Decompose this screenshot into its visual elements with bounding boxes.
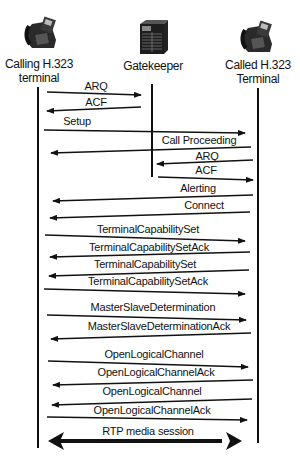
msg-label: RTP media session xyxy=(102,425,194,437)
msg-label: TerminalCapabilitySet xyxy=(97,223,199,235)
phone-icon xyxy=(26,16,56,48)
callee-label-line1: Called H.323 xyxy=(225,58,291,72)
msg-label: Call Proceeding xyxy=(162,134,237,146)
msg-label: ARQ xyxy=(84,80,107,92)
msg-arrow-arq-1 xyxy=(47,92,141,95)
msg-label: Setup xyxy=(63,115,91,127)
gatekeeper-label: Gatekeeper xyxy=(123,59,183,73)
msg-arrow-acf-2 xyxy=(158,177,253,180)
msg-arrow-msdack xyxy=(51,333,251,339)
gatekeeper-label-line1: Gatekeeper xyxy=(123,59,183,73)
msg-label: TerminalCapabilitySetAck xyxy=(88,275,208,287)
caller-label-line2: terminal xyxy=(5,71,73,85)
msg-label: OpenLogicalChannel xyxy=(102,385,201,397)
msg-label: Connect xyxy=(184,199,224,211)
caller-label-line1: Calling H.323 xyxy=(5,57,73,71)
server-icon xyxy=(140,20,168,54)
msg-label: MasterSlaveDeterminationAck xyxy=(88,320,231,332)
caller-label: Calling H.323 terminal xyxy=(5,57,73,85)
msg-label: OpenLogicalChannelAck xyxy=(98,366,215,378)
h323-call-flow-diagram: Calling H.323 terminal Gatekeeper Called… xyxy=(0,0,300,469)
msg-label: TerminalCapabilitySetAck xyxy=(89,241,209,253)
msg-arrow-connect xyxy=(50,212,250,218)
msg-label: ACF xyxy=(195,164,216,176)
msg-label: ACF xyxy=(85,96,106,108)
phone-icon xyxy=(242,20,272,52)
msg-label: TerminalCapabilitySet xyxy=(94,258,196,270)
callee-label: Called H.323 Terminal xyxy=(225,58,291,86)
msg-arrow-setup xyxy=(44,130,245,133)
msg-label: OpenLogicalChannel xyxy=(104,348,203,360)
msg-arrow-tcsack-2 xyxy=(44,289,245,294)
msg-label: Alerting xyxy=(180,182,216,194)
msg-arrow-olcack-2 xyxy=(47,417,247,420)
callee-label-line2: Terminal xyxy=(225,72,291,86)
msg-label: ARQ xyxy=(195,150,218,162)
msg-label: OpenLogicalChannelAck xyxy=(94,404,211,416)
msg-label: MasterSlaveDetermination xyxy=(91,301,216,313)
